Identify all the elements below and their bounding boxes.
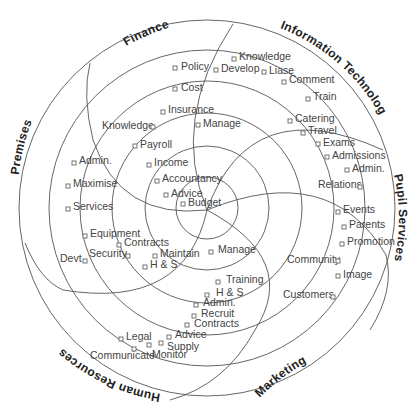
item: Community [287,253,341,265]
item-label: Training [226,273,264,285]
item: Cost [173,81,203,93]
item-label: Policy [181,60,210,72]
item-label: Image [343,268,372,280]
item: Parents [342,218,385,230]
sector-label-pupil-services: Pupil Services [391,173,410,263]
item-marker [288,119,292,123]
item-marker [143,265,147,269]
item: Training [216,273,264,285]
item-marker [119,337,123,341]
item-marker [66,184,70,188]
item: Train [306,90,337,102]
item: Legal [119,330,152,342]
item-label: Comment [289,73,335,85]
item: Customers [283,288,335,300]
sector-label-premises: Premises [8,117,35,175]
item: Security [89,247,130,259]
sector-label-finance: Finance [121,17,171,49]
item-label: Payroll [140,138,172,150]
item: Income [147,156,189,168]
item-label: Community [287,253,341,265]
item: Knowledge [232,50,291,62]
item-marker [151,125,155,129]
item-marker [331,295,335,299]
item-marker [185,323,189,327]
item-label: Insurance [168,103,214,115]
item-label: Devt [60,252,82,264]
item: Image [336,268,372,280]
item: Insurance [161,103,214,115]
sector-spiral-diagram: Finance Information Technology Pupil Ser… [0,0,416,417]
item-label: Promotion [347,235,395,247]
item-label: Communicate [90,349,155,361]
item: Manage [196,117,241,129]
item-marker [159,341,163,345]
item-marker [173,87,177,91]
item-label: Accountancy [162,172,223,184]
item-marker [72,161,76,165]
item: Devt [60,252,87,264]
item: Catering [288,112,335,124]
item: Accountancy [155,172,223,184]
item-marker [167,335,171,339]
item-marker [342,225,346,229]
item-marker [181,202,185,206]
item-marker [147,343,151,347]
item-label: Manage [203,117,241,129]
item-label: Cost [181,81,203,93]
item-marker [66,207,70,211]
item-marker [345,168,349,172]
item-marker [83,259,87,263]
item-label: Income [154,156,189,168]
item-marker [209,250,213,254]
item-marker [325,155,329,159]
item: Budget [181,196,221,208]
item-label: Train [313,90,337,102]
item-label: Exams [323,136,355,148]
item: Admin. [345,162,385,174]
item: Services [66,200,113,212]
item: Admin. [72,154,112,166]
item-label: Parents [349,218,385,230]
item-marker [336,259,340,263]
item-marker [340,242,344,246]
item-label: Knowledge [239,50,291,62]
item-label: Knowledge [102,119,154,131]
item-marker [358,185,362,189]
item-marker [336,274,340,278]
item: Events [336,203,375,215]
item-marker [161,110,165,114]
item-marker [282,80,286,84]
item: H & S [143,258,177,270]
item-marker [126,254,130,258]
item: Payroll [133,138,172,150]
item-label: Advice [175,328,207,340]
item-label: Budget [188,196,221,208]
item: Policy [173,60,210,72]
item-label: H & S [150,258,177,270]
item-label: Relations [318,178,362,190]
item-label: Events [343,203,375,215]
item-marker [306,97,310,101]
item-marker [194,303,198,307]
item: Exams [316,136,355,148]
item: Comment [282,73,335,85]
item-marker [196,123,200,127]
item: Advice [167,328,207,340]
item: Promotion [340,235,395,247]
item: Maximise [66,177,117,189]
item-label: Admin. [79,154,112,166]
item-label: Manage [218,243,256,255]
item-marker [155,179,159,183]
item-marker [147,163,151,167]
item: Manage [209,243,256,255]
items: Policy Cost Insurance Knowledge Payroll … [60,50,395,361]
item-marker [214,68,218,72]
item-label: Customers [283,288,334,300]
item: Knowledge [102,119,155,131]
item-marker [83,234,87,238]
item: Communicate [90,347,155,361]
item-label: Services [73,200,113,212]
item-marker [216,280,220,284]
item-label: Admin. [352,162,385,174]
